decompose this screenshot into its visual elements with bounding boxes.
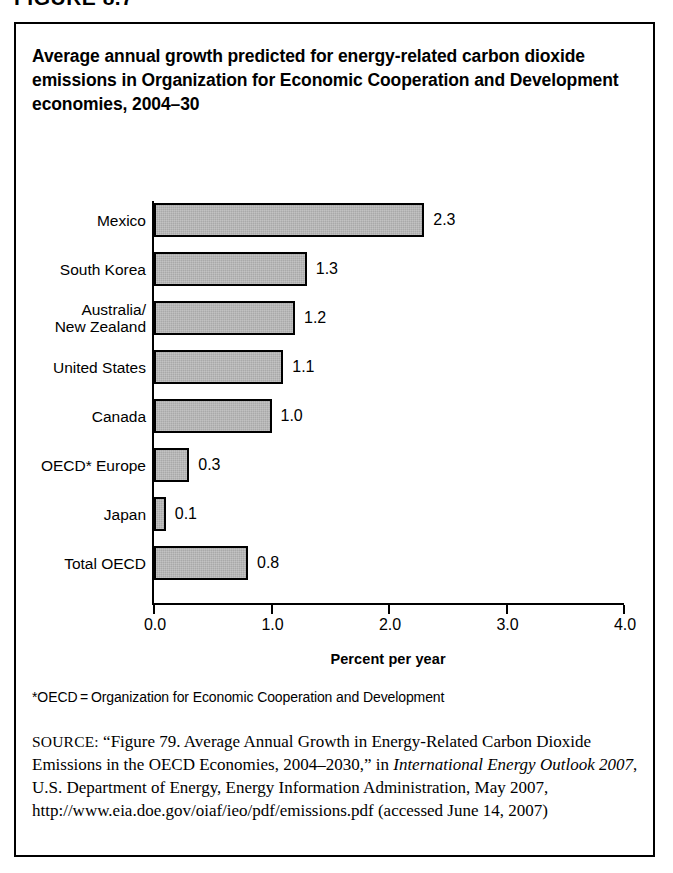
bar-row: Canada1.0 bbox=[16, 399, 653, 433]
x-axis-tick bbox=[623, 605, 625, 614]
bar-row: Mexico2.3 bbox=[16, 203, 653, 237]
x-axis-tick-label: 1.0 bbox=[243, 616, 303, 634]
bar-value-label: 1.1 bbox=[292, 358, 314, 376]
bar-row: United States1.1 bbox=[16, 350, 653, 384]
bar-category-label: Total OECD bbox=[0, 555, 146, 572]
x-axis-tick-label: 4.0 bbox=[595, 616, 655, 634]
bar-value-label: 0.1 bbox=[175, 505, 197, 523]
bar-category-label: Canada bbox=[0, 408, 146, 425]
figure-number-header: FIGURE 8.7 bbox=[14, 0, 133, 10]
bar-value-label: 1.0 bbox=[281, 407, 303, 425]
bar bbox=[154, 252, 307, 286]
bar bbox=[154, 448, 189, 482]
bar bbox=[154, 350, 283, 384]
page-title: Average annual growth predicted for ener… bbox=[32, 44, 632, 116]
x-axis-title: Percent per year bbox=[152, 651, 624, 667]
bar-category-label: OECD* Europe bbox=[0, 457, 146, 474]
bar-category-label: Australia/ New Zealand bbox=[0, 301, 146, 335]
bar bbox=[154, 497, 166, 531]
footnote-oecd-definition: *OECD = Organization for Economic Cooper… bbox=[32, 689, 444, 705]
x-axis-tick bbox=[506, 605, 508, 614]
bar bbox=[154, 399, 272, 433]
bar-row: Total OECD0.8 bbox=[16, 546, 653, 580]
bar-category-label: Mexico bbox=[0, 212, 146, 229]
bar-row: South Korea1.3 bbox=[16, 252, 653, 286]
x-axis-tick-label: 3.0 bbox=[478, 616, 538, 634]
bar-value-label: 1.2 bbox=[304, 309, 326, 327]
x-axis-tick-label: 0.0 bbox=[125, 616, 185, 634]
source-citation: SOURCE: “Figure 79. Average Annual Growt… bbox=[32, 730, 638, 822]
bar-value-label: 1.3 bbox=[316, 260, 338, 278]
bar-row: OECD* Europe0.3 bbox=[16, 448, 653, 482]
source-publication-title: International Energy Outlook 2007 bbox=[393, 755, 633, 774]
figure-frame: Average annual growth predicted for ener… bbox=[14, 22, 655, 857]
bar-category-label: South Korea bbox=[0, 261, 146, 278]
x-axis-tick bbox=[388, 605, 390, 614]
bar bbox=[154, 203, 424, 237]
bar-category-label: Japan bbox=[0, 506, 146, 523]
bar-row: Australia/ New Zealand1.2 bbox=[16, 301, 653, 335]
bar-value-label: 2.3 bbox=[433, 211, 455, 229]
bar bbox=[154, 301, 295, 335]
chart-plot-area: Mexico2.3South Korea1.3Australia/ New Ze… bbox=[16, 179, 653, 639]
bar bbox=[154, 546, 248, 580]
bar-value-label: 0.8 bbox=[257, 554, 279, 572]
bar-category-label: United States bbox=[0, 359, 146, 376]
x-axis-tick bbox=[271, 605, 273, 614]
bar-value-label: 0.3 bbox=[198, 456, 220, 474]
source-label: SOURCE: bbox=[32, 733, 99, 750]
bar-row: Japan0.1 bbox=[16, 497, 653, 531]
x-axis-tick-label: 2.0 bbox=[360, 616, 420, 634]
x-axis-tick bbox=[153, 605, 155, 614]
